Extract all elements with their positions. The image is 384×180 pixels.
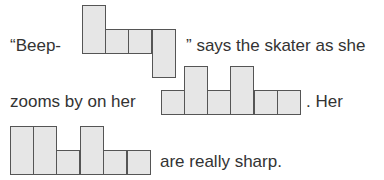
letter-box (230, 66, 254, 115)
letter-box (105, 29, 129, 54)
sentence-text-2: ” says the skater as she (186, 36, 366, 56)
letter-box (33, 126, 57, 175)
letter-box (103, 150, 127, 175)
letter-box (10, 126, 34, 175)
letter-box (277, 90, 301, 115)
sentence-text-5: are really sharp. (160, 152, 282, 172)
letter-box (80, 126, 104, 175)
letter-box (152, 29, 176, 78)
letter-box (184, 66, 208, 115)
letter-box (161, 90, 185, 115)
letter-box (82, 5, 106, 54)
sentence-text-3: zooms by on her (10, 92, 136, 112)
letter-box (127, 150, 151, 175)
sentence-text-1: “Beep- (10, 36, 61, 56)
letter-box (254, 90, 278, 115)
letter-box (128, 29, 152, 54)
letter-box (56, 150, 80, 175)
sentence-text-4: . Her (306, 92, 343, 112)
letter-box (207, 90, 231, 115)
